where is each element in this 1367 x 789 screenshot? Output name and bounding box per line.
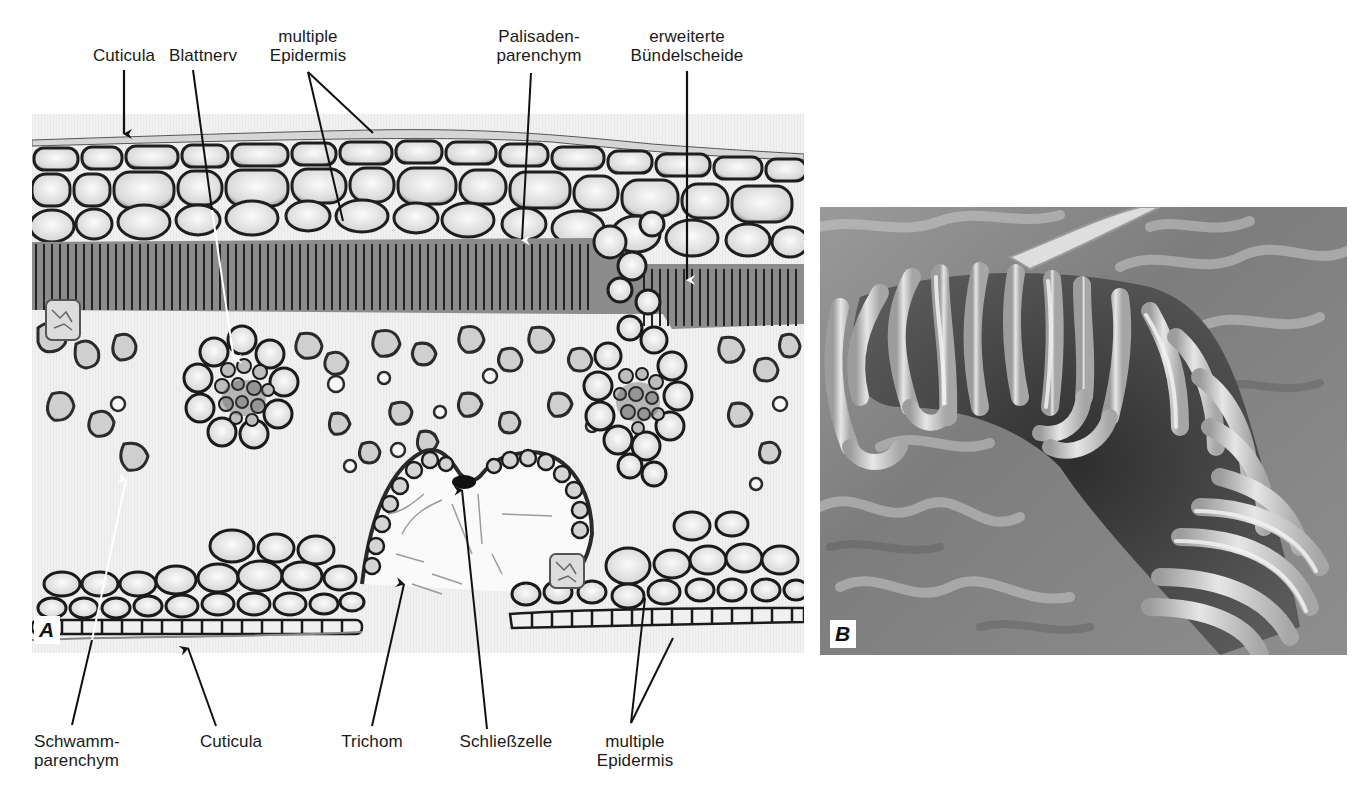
label-cuticula-bottom: Cuticula [186,732,276,751]
label-schwammparenchym: Schwamm- parenchym [34,732,150,770]
label-multiple-epidermis-bottom: multiple Epidermis [580,732,690,770]
figure: A [0,0,1367,789]
label-erweiterte-buendelscheide: erweiterte Bündelscheide [612,27,762,65]
panel-a-letter: A [34,616,60,644]
label-trichom: Trichom [332,732,412,751]
panel-b-letter: B [830,620,856,648]
label-palisadenparenchym: Palisaden- parenchym [480,27,598,65]
panel-b-sem-trichomes: B [820,207,1347,655]
label-multiple-epidermis-top: multiple Epidermis [250,27,366,65]
sem-trichome-micrograph [820,207,1347,655]
label-schliesszelle: Schließzelle [448,732,564,751]
label-blattnerv: Blattnerv [158,46,248,65]
leader-cuticula-bottom [188,648,216,726]
leaf-cross-section-micrograph [32,114,804,653]
panel-a-leaf-cross-section: A [32,114,804,653]
